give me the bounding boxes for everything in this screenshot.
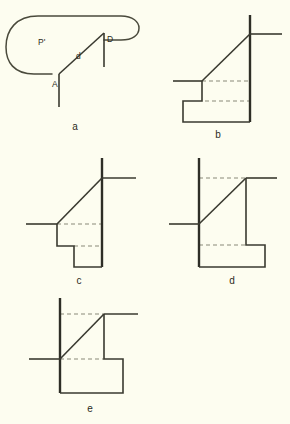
diagonal-edge-e [60,314,104,359]
caption-d: d [229,275,235,286]
caption-e: e [87,403,93,414]
caption-b: b [215,129,221,140]
label-region-p-prime: P' [38,37,46,47]
segment-d [59,33,104,74]
label-vertex-d: D [107,34,113,44]
caption-a: a [72,121,78,132]
caption-c: c [77,275,82,286]
panel-a: P' A D d a [0,0,150,142]
figure-sheet: P' A D d a b c [0,0,290,424]
label-vertex-a: A [52,79,58,89]
step-base-outline-b [183,81,250,122]
panel-b: b [150,0,290,145]
diagonal-edge-d [199,178,246,224]
region-outline-p-prime [6,16,139,74]
panel-d: d [152,148,290,290]
label-segment-d: d [76,51,81,61]
panel-e: e [16,292,176,422]
diagonal-edge-b [202,34,250,81]
diagonal-edge-c [57,178,102,224]
panel-c: c [16,148,164,290]
